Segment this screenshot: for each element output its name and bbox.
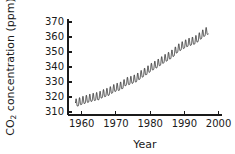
y-tick-label: 360 xyxy=(45,31,64,42)
y-axis-title-suffix: concentration (ppm) xyxy=(4,0,17,115)
x-tick-label: 1970 xyxy=(103,118,128,129)
y-axis-title: CO2 concentration (ppm) xyxy=(4,0,18,136)
co2-data-line xyxy=(76,27,209,106)
chart-canvas: 3103203303403503603701960197019801990200… xyxy=(0,0,235,154)
y-tick-label: 340 xyxy=(45,61,64,72)
y-tick-label: 350 xyxy=(45,46,64,57)
y-tick-label: 310 xyxy=(45,106,64,117)
y-axis-title-prefix: CO xyxy=(4,119,17,136)
x-axis-title: Year xyxy=(132,138,157,151)
co2-concentration-chart: 3103203303403503603701960197019801990200… xyxy=(0,0,235,154)
x-tick-label: 1990 xyxy=(172,118,197,129)
x-tick-label: 1960 xyxy=(69,118,94,129)
y-tick-label: 370 xyxy=(45,16,64,27)
y-tick-label: 320 xyxy=(45,91,64,102)
x-tick-label: 2000 xyxy=(206,118,231,129)
x-tick-label: 1980 xyxy=(137,118,162,129)
y-tick-label: 330 xyxy=(45,76,64,87)
